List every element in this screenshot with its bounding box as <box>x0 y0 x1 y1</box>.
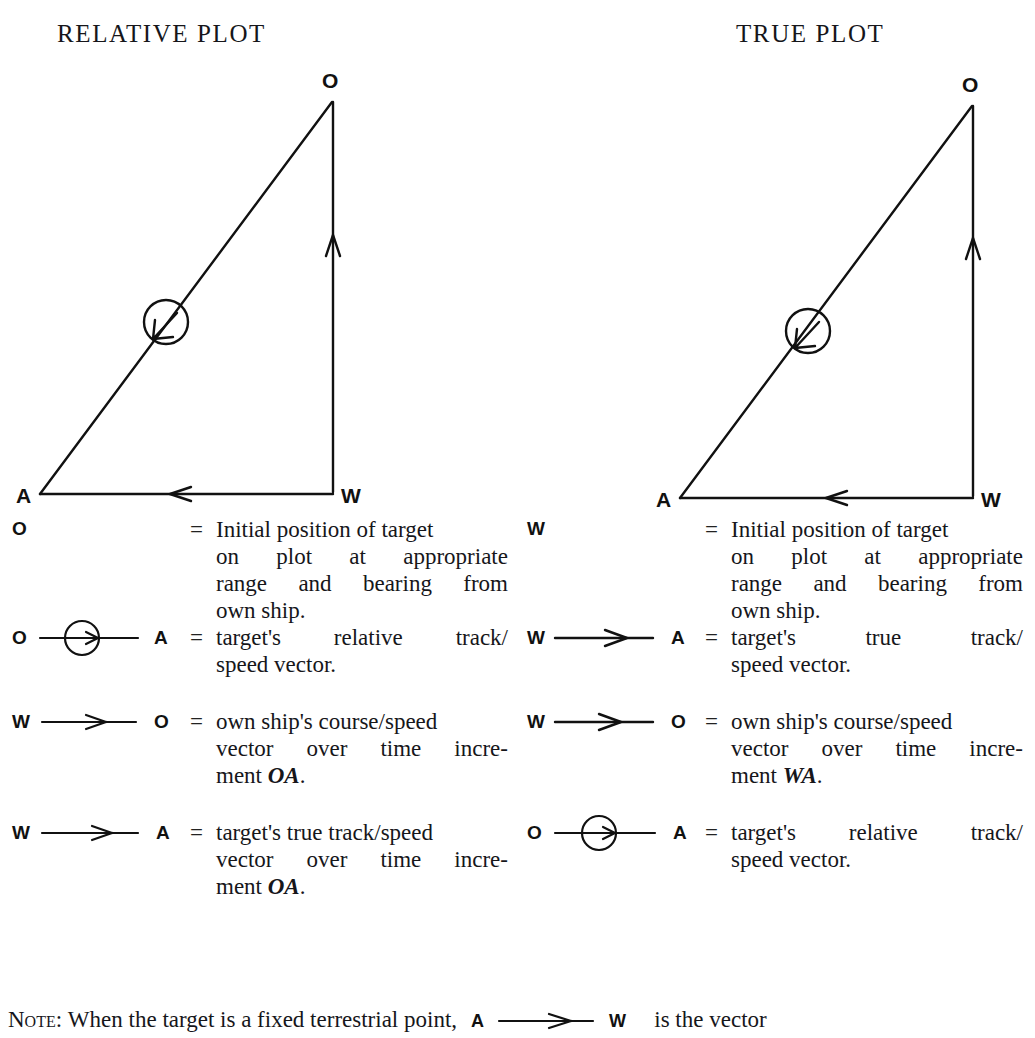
symbol-end-label: O <box>154 711 169 732</box>
note-label: Note <box>8 1006 56 1033</box>
legend-line-italic: ment OA. <box>216 873 508 900</box>
legend-equals: = <box>190 624 216 651</box>
legend-row: W A = target'struetrack/ speed vector. <box>523 624 1023 678</box>
vertex-label-a: A <box>656 488 671 511</box>
legend-description: target'srelativetrack/ speed vector. <box>216 624 508 678</box>
legend-equals: = <box>705 708 731 735</box>
legend-line-italic: ment OA. <box>216 762 508 789</box>
symbol-end-label: A <box>671 627 685 648</box>
justified-line: target'srelativetrack/ <box>731 819 1023 846</box>
legend-row: W O = own ship's course/speed vectorover… <box>523 708 1023 789</box>
true-plot-figure: O A W <box>638 60 1035 520</box>
legend-row: W O = own ship's course/speed vectorover… <box>8 708 508 789</box>
legend-symbol-circled-arrow: O A <box>8 624 190 650</box>
justified-line: target'struetrack/ <box>731 624 1023 651</box>
legend-description: own ship's course/speed vectorovertimein… <box>731 708 1023 789</box>
legend-spacer <box>8 789 508 819</box>
symbol-start-label: O <box>527 822 542 843</box>
true-plot-title: TRUE PLOT <box>736 20 884 48</box>
legend-symbol-plain-arrow: W A <box>523 624 705 650</box>
legend-equals: = <box>190 516 216 543</box>
down-left-arrowhead-icon <box>153 313 177 339</box>
relative-plot-title: RELATIVE PLOT <box>57 20 266 48</box>
vertex-label-w: W <box>981 488 1001 511</box>
justified-line: target'srelativetrack/ <box>216 624 508 651</box>
legend-equals: = <box>190 708 216 735</box>
symbol-end-label: O <box>671 711 686 732</box>
legend-row: O = Initial position of target onplotata… <box>8 516 508 624</box>
symbol-end-label: A <box>673 822 687 843</box>
symbol-end-label: A <box>156 822 170 843</box>
note-line: Note: When the target is a fixed terrest… <box>8 1006 1028 1033</box>
legend-symbol-plain-arrow: W O <box>523 708 705 734</box>
justified-line: vectorovertimeincre- <box>216 846 508 873</box>
legend-description: Initial position of target onplotatappro… <box>216 516 508 624</box>
legend-equals: = <box>705 819 731 846</box>
note-text-before: When the target is a fixed terrestrial p… <box>68 1006 457 1033</box>
relative-plot-legend: O = Initial position of target onplotata… <box>8 516 508 900</box>
legend-row: O A = target'srelativetrack/ speed vecto… <box>8 624 508 678</box>
justified-line: rangeandbearingfrom <box>731 570 1023 597</box>
legend-description: Initial position of target onplotatappro… <box>731 516 1023 624</box>
note-symbol-start-label: A <box>471 1011 484 1031</box>
relative-plot-figure: O A W <box>0 60 400 520</box>
justified-line: rangeandbearingfrom <box>216 570 508 597</box>
legend-row: O A = target'srelativetrack/ speed vecto… <box>523 819 1023 873</box>
true-plot-legend: W = Initial position of target onplotata… <box>523 516 1023 873</box>
note-text-after: is the vector <box>654 1006 766 1033</box>
symbol-start-label: W <box>527 711 545 732</box>
legend-spacer <box>8 678 508 708</box>
symbol-start-label: W <box>12 711 30 732</box>
legend-symbol-point: O <box>8 516 190 542</box>
legend-line-italic: ment WA. <box>731 762 1023 789</box>
legend-row: W = Initial position of target onplotata… <box>523 516 1023 624</box>
legend-description: own ship's course/speed vectorovertimein… <box>216 708 508 789</box>
legend-equals: = <box>190 819 216 846</box>
legend-description: target's true track/speed vectorovertime… <box>216 819 508 900</box>
legend-symbol-circled-arrow: O A <box>523 819 705 845</box>
legend-symbol-plain-arrow: W A <box>8 819 190 845</box>
vertex-label-w: W <box>341 484 361 507</box>
legend-symbol-point: W <box>523 516 705 542</box>
justified-line: onplotatappropriate <box>731 543 1023 570</box>
legend-row: W A = target's true track/speed vectorov… <box>8 819 508 900</box>
legend-spacer <box>523 789 1023 819</box>
legend-description: target'struetrack/ speed vector. <box>731 624 1023 678</box>
symbol-start-label: W <box>527 627 545 648</box>
vertex-label-a: A <box>16 484 31 507</box>
legend-symbol-plain-arrow: W O <box>8 708 190 734</box>
symbol-start-label: O <box>12 518 27 539</box>
note-symbol-arrow: A W <box>469 1007 649 1033</box>
justified-line: vectorovertimeincre- <box>216 735 508 762</box>
justified-line: vectorovertimeincre- <box>731 735 1023 762</box>
vertex-label-o: O <box>322 69 338 92</box>
note-symbol-end-label: W <box>609 1011 626 1031</box>
legend-description: target'srelativetrack/ speed vector. <box>731 819 1023 873</box>
note-colon: : <box>56 1006 62 1033</box>
legend-equals: = <box>705 624 731 651</box>
symbol-start-label: W <box>12 822 30 843</box>
vertex-label-o: O <box>962 73 978 96</box>
symbol-start-label: O <box>12 627 27 648</box>
legend-equals: = <box>705 516 731 543</box>
symbol-start-label: W <box>527 518 545 539</box>
legend-spacer <box>523 678 1023 708</box>
symbol-end-label: A <box>154 627 168 648</box>
justified-line: onplotatappropriate <box>216 543 508 570</box>
